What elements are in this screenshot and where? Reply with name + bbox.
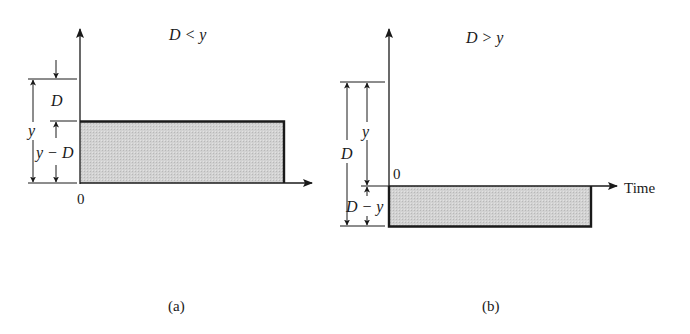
panel-b: D > y y D D − y 0 Time (b)	[340, 29, 655, 315]
label-lower-a: y − D	[34, 144, 74, 162]
panel-b-title: D > y	[465, 29, 504, 47]
origin-label-a: 0	[77, 191, 85, 207]
label-upper-a: D	[50, 92, 63, 109]
caption-a: (a)	[168, 298, 185, 315]
shaded-region-b	[389, 186, 591, 226]
shaded-region-a	[80, 121, 284, 183]
label-outer-a: y	[26, 122, 36, 140]
panel-a-title: D < y	[168, 26, 207, 44]
figure-canvas: D < y D y y − D 0 (a) D > y y D D − y	[0, 0, 690, 334]
label-outer-b: D	[340, 145, 353, 162]
origin-label-b: 0	[393, 166, 401, 182]
time-axis-label: Time	[624, 180, 655, 196]
label-upper-b: y	[360, 123, 370, 141]
caption-b: (b)	[482, 298, 500, 315]
panel-a: D < y D y y − D 0 (a)	[26, 26, 312, 315]
label-lower-b: D − y	[345, 198, 384, 216]
